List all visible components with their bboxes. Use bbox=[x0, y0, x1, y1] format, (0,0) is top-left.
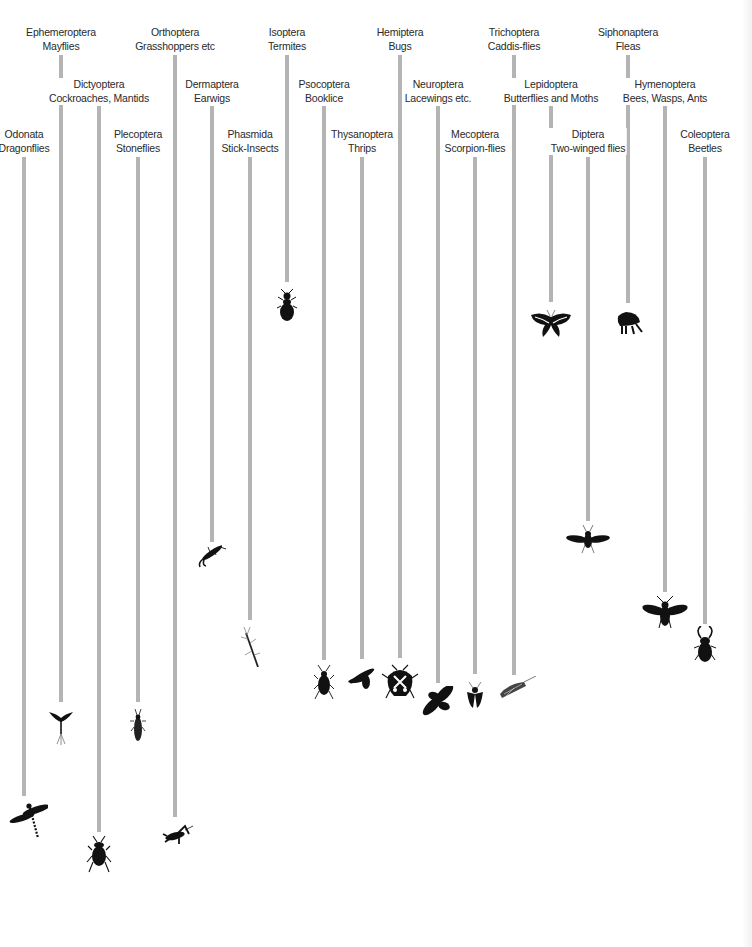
swallowtail-butterfly-icon bbox=[527, 305, 575, 349]
order-name: Psocoptera bbox=[298, 78, 349, 92]
insect-orders-diagram: OdonataDragonfliesEphemeropteraMayfliesD… bbox=[0, 0, 752, 947]
common-name: Beetles bbox=[680, 142, 729, 156]
order-label-neuroptera: NeuropteraLacewings etc. bbox=[403, 78, 474, 105]
common-name: Earwigs bbox=[185, 92, 238, 106]
stick-insect-icon bbox=[226, 623, 274, 667]
lineage-line-isoptera bbox=[285, 55, 289, 282]
common-name: Bugs bbox=[377, 40, 424, 54]
lineage-line-orthoptera bbox=[173, 55, 177, 817]
order-label-ephemeroptera: EphemeropteraMayflies bbox=[24, 26, 98, 53]
order-label-thysanoptera: ThysanopteraThrips bbox=[329, 128, 395, 155]
order-name: Thysanoptera bbox=[331, 128, 393, 142]
lineage-line-mecoptera bbox=[473, 157, 477, 674]
order-name: Odonata bbox=[0, 128, 49, 142]
order-label-odonata: OdonataDragonflies bbox=[0, 128, 51, 155]
order-label-dermaptera: DermapteraEarwigs bbox=[183, 78, 240, 105]
order-name: Lepidoptera bbox=[504, 78, 598, 92]
lineage-line-diptera bbox=[586, 157, 590, 521]
stonefly-icon bbox=[114, 707, 162, 751]
fly-icon bbox=[564, 523, 612, 567]
order-label-siphonaptera: SiphonapteraFleas bbox=[596, 26, 660, 53]
order-label-psocoptera: PsocopteraBooklice bbox=[296, 78, 351, 105]
common-name: Stoneflies bbox=[114, 142, 162, 156]
common-name: Thrips bbox=[331, 142, 393, 156]
order-label-dictyoptera: DictyopteraCockroaches, Mantids bbox=[47, 78, 151, 105]
lineage-line-dermaptera bbox=[210, 106, 214, 542]
grasshopper-icon bbox=[151, 822, 199, 866]
order-name: Mecoptera bbox=[445, 128, 506, 142]
common-name: Booklice bbox=[298, 92, 349, 106]
order-name: Isoptera bbox=[268, 26, 306, 40]
order-label-mecoptera: MecopteraScorpion-flies bbox=[443, 128, 508, 155]
common-name: Cockroaches, Mantids bbox=[49, 92, 149, 106]
mayfly-icon bbox=[37, 704, 85, 748]
lineage-line-neuroptera bbox=[436, 106, 440, 683]
lineage-line-phasmida bbox=[248, 157, 252, 620]
order-name: Siphonaptera bbox=[598, 26, 658, 40]
order-label-trichoptera: TrichopteraCaddis-flies bbox=[486, 26, 542, 53]
order-name: Coleoptera bbox=[680, 128, 729, 142]
order-label-coleoptera: ColeopteraBeetles bbox=[678, 128, 731, 155]
lineage-line-plecoptera bbox=[136, 157, 140, 702]
order-name: Hymenoptera bbox=[623, 78, 707, 92]
common-name: Termites bbox=[268, 40, 306, 54]
order-label-isoptera: IsopteraTermites bbox=[266, 26, 308, 53]
order-name: Diptera bbox=[551, 128, 625, 142]
caddisfly-icon bbox=[490, 676, 538, 720]
order-label-hymenoptera: HymenopteraBees, Wasps, Ants bbox=[621, 78, 709, 105]
common-name: Fleas bbox=[598, 40, 658, 54]
order-label-lepidoptera: LepidopteraButterflies and Moths bbox=[502, 78, 600, 105]
dragonfly-icon bbox=[0, 796, 48, 840]
common-name: Stick-Insects bbox=[222, 142, 279, 156]
order-label-plecoptera: PlecopteraStoneflies bbox=[112, 128, 164, 155]
cockroach-icon bbox=[75, 834, 123, 878]
order-name: Dictyoptera bbox=[49, 78, 149, 92]
lineage-line-dictyoptera bbox=[97, 106, 101, 832]
order-name: Hemiptera bbox=[377, 26, 424, 40]
order-name: Orthoptera bbox=[135, 26, 215, 40]
order-name: Ephemeroptera bbox=[26, 26, 96, 40]
order-name: Plecoptera bbox=[114, 128, 162, 142]
beetle-icon bbox=[681, 626, 729, 670]
page-edge-shadow bbox=[742, 0, 752, 947]
common-name: Bees, Wasps, Ants bbox=[623, 92, 707, 106]
order-name: Trichoptera bbox=[488, 26, 540, 40]
lineage-line-odonata bbox=[22, 157, 26, 796]
lineage-line-psocoptera bbox=[322, 106, 326, 660]
common-name: Lacewings etc. bbox=[405, 92, 472, 106]
order-label-hemiptera: HemipteraBugs bbox=[375, 26, 426, 53]
order-name: Dermaptera bbox=[185, 78, 238, 92]
common-name: Mayflies bbox=[26, 40, 96, 54]
lineage-line-trichoptera bbox=[512, 55, 516, 675]
order-name: Phasmida bbox=[222, 128, 279, 142]
lineage-line-hymenoptera bbox=[663, 106, 667, 592]
common-name: Caddis-flies bbox=[488, 40, 540, 54]
flea-icon bbox=[604, 306, 652, 350]
common-name: Scorpion-flies bbox=[445, 142, 506, 156]
lineage-line-coleoptera bbox=[703, 157, 707, 624]
common-name: Grasshoppers etc bbox=[135, 40, 215, 54]
order-label-orthoptera: OrthopteraGrasshoppers etc bbox=[133, 26, 217, 53]
lineage-line-hemiptera bbox=[398, 55, 402, 658]
lineage-line-thysanoptera bbox=[360, 157, 364, 659]
order-label-phasmida: PhasmidaStick-Insects bbox=[220, 128, 281, 155]
termite-icon bbox=[263, 286, 311, 330]
common-name: Butterflies and Moths bbox=[504, 92, 598, 106]
earwig-icon bbox=[188, 545, 236, 589]
order-name: Neuroptera bbox=[405, 78, 472, 92]
lineage-line-ephemeroptera bbox=[59, 55, 63, 702]
order-label-diptera: DipteraTwo-winged flies bbox=[549, 128, 627, 155]
common-name: Dragonflies bbox=[0, 142, 49, 156]
common-name: Two-winged flies bbox=[551, 142, 625, 156]
